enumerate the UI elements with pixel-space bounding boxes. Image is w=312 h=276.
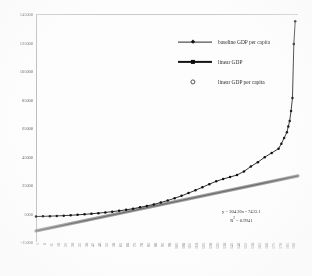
data-point	[270, 152, 273, 155]
data-point	[125, 209, 128, 212]
x-axis-tick-label: 111	[188, 243, 192, 249]
x-axis-tick-label: 96	[168, 243, 172, 247]
data-point	[90, 213, 93, 216]
data-point	[290, 110, 293, 113]
x-axis-tick-label: 26	[71, 243, 75, 247]
data-point	[187, 192, 190, 195]
legend-item-linear-gdp-per-capita[interactable]: linear GDP per capita	[178, 72, 306, 92]
y-axis-tick-label: 85000	[22, 97, 33, 102]
data-point	[146, 205, 149, 208]
square-marker-icon	[178, 57, 212, 67]
data-point	[250, 165, 253, 168]
x-axis-tick-label: 51	[105, 243, 109, 247]
data-point	[76, 214, 79, 217]
data-point	[194, 189, 197, 192]
data-point	[132, 207, 135, 210]
x-axis-tick-label: 36	[85, 243, 89, 247]
r-squared-line: R2 = 0.9941	[222, 215, 261, 224]
data-point	[257, 161, 260, 164]
data-point	[97, 212, 100, 215]
data-point	[83, 213, 86, 216]
x-axis-tick-label: 156	[251, 243, 255, 249]
data-point	[160, 201, 163, 204]
data-point	[215, 180, 218, 183]
data-point	[139, 206, 142, 209]
data-point	[49, 215, 52, 218]
data-point	[111, 210, 114, 213]
chart-legend: baseline GDP per capita linear GDP linea…	[178, 32, 306, 92]
data-point	[104, 211, 107, 214]
x-axis-tick-label: 91	[161, 243, 165, 247]
x-axis-tick-label: 81	[147, 243, 151, 247]
data-point	[280, 142, 283, 145]
x-axis-tick-label: 86	[154, 243, 158, 247]
legend-label-linear-gdp-per-capita: linear GDP per capita	[218, 79, 265, 85]
y-axis-tick-label: 25000	[22, 183, 33, 188]
data-point	[283, 137, 286, 140]
data-point	[56, 215, 59, 218]
x-axis-tick-label: 186	[292, 243, 296, 249]
data-point	[118, 210, 121, 213]
x-axis-tick-label: 46	[98, 243, 102, 247]
x-axis-tick-label: 11	[50, 243, 54, 247]
legend-item-linear-gdp[interactable]: linear GDP	[178, 52, 306, 72]
x-axis-tick-label: 126	[209, 243, 213, 249]
x-axis-tick-label: 121	[202, 243, 206, 249]
data-point	[288, 120, 291, 123]
data-point	[277, 147, 280, 150]
x-axis-tick-label: 151	[244, 243, 248, 249]
data-point	[173, 197, 176, 200]
x-axis-tick-label: 101	[175, 243, 179, 249]
x-axis-tick-label: 1	[36, 243, 40, 245]
x-axis-tick-label: 136	[223, 243, 227, 249]
data-point	[287, 125, 290, 128]
data-point	[243, 170, 246, 173]
data-point	[286, 131, 289, 134]
x-axis-tick-label: 141	[230, 243, 234, 249]
data-point	[229, 176, 232, 179]
data-point	[236, 174, 239, 177]
legend-label-baseline-gdp-per-capita: baseline GDP per capita	[218, 39, 270, 45]
chart-container: 1450001250001050008500065000450002500050…	[0, 0, 312, 276]
data-point	[69, 214, 72, 217]
x-axis-tick-label: 61	[119, 243, 123, 247]
x-axis-tick-label: 181	[286, 243, 290, 249]
x-axis-tick-label: 116	[195, 243, 199, 249]
open-circle-marker-icon	[178, 77, 212, 87]
x-axis-tick-label: 171	[272, 243, 276, 249]
x-axis-tick-label: 56	[112, 243, 116, 247]
legend-item-baseline-gdp-per-capita[interactable]: baseline GDP per capita	[178, 32, 306, 52]
data-point	[294, 20, 297, 23]
data-point	[35, 215, 38, 218]
x-axis-tick-label: 16	[57, 243, 61, 247]
y-axis-tick-label: 65000	[22, 126, 33, 131]
x-axis-tick-label: 176	[279, 243, 283, 249]
y-axis-tick-label: 145000	[20, 12, 33, 17]
y-axis-tick-label: 105000	[20, 69, 33, 74]
x-axis-tick-label: 166	[265, 243, 269, 249]
data-point	[208, 183, 211, 186]
data-point	[166, 199, 169, 202]
data-point	[42, 215, 45, 218]
x-axis-tick-label: 106	[182, 243, 186, 249]
data-point	[201, 186, 204, 189]
data-point	[222, 178, 225, 181]
y-axis-tick-label: 5000	[24, 211, 33, 216]
y-axis-tick-label: 125000	[20, 40, 33, 45]
x-axis-tick-label: 76	[140, 243, 144, 247]
x-axis-tick-label: 71	[133, 243, 137, 247]
y-axis-tick-label: 45000	[22, 154, 33, 159]
data-point	[180, 195, 183, 198]
trendline-equation: y = 204.26x - 7433.1 R2 = 0.9941	[222, 209, 261, 224]
x-axis-tick-label: 21	[64, 243, 68, 247]
data-point	[291, 97, 294, 100]
x-axis-tick-label: 131	[216, 243, 220, 249]
legend-label-linear-gdp: linear GDP	[218, 59, 242, 65]
x-axis-tick-label: 31	[78, 243, 82, 247]
x-axis-tick-label: 161	[258, 243, 262, 249]
diamond-marker-icon	[178, 37, 212, 47]
data-point	[153, 203, 156, 206]
y-axis-tick-label: -15000	[21, 240, 33, 245]
x-axis-tick-label: 41	[91, 243, 95, 247]
x-axis-tick-label: 6	[43, 243, 47, 245]
